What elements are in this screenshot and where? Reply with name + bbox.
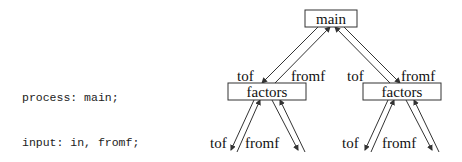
edge-main-right bbox=[335, 27, 400, 83]
edge-label-fromf: fromf bbox=[245, 135, 279, 151]
svg-text:main: main bbox=[316, 11, 346, 27]
svg-text:factors: factors bbox=[382, 84, 423, 100]
node-main: main bbox=[305, 10, 357, 27]
process-tree-diagram: main factors factors tof fromf tof fromf… bbox=[0, 0, 462, 162]
edge-label-tof: tof bbox=[210, 135, 227, 151]
edge-label-fromf: fromf bbox=[382, 135, 416, 151]
edge-label-fromf: fromf bbox=[401, 68, 435, 84]
svg-text:factors: factors bbox=[247, 84, 288, 100]
edge-label-tof: tof bbox=[237, 68, 254, 84]
node-factors-right: factors bbox=[363, 83, 441, 100]
edge-label-fromf: fromf bbox=[291, 68, 325, 84]
node-factors-left: factors bbox=[228, 83, 306, 100]
edge-label-tof: tof bbox=[347, 68, 364, 84]
edge-label-tof: tof bbox=[342, 135, 359, 151]
